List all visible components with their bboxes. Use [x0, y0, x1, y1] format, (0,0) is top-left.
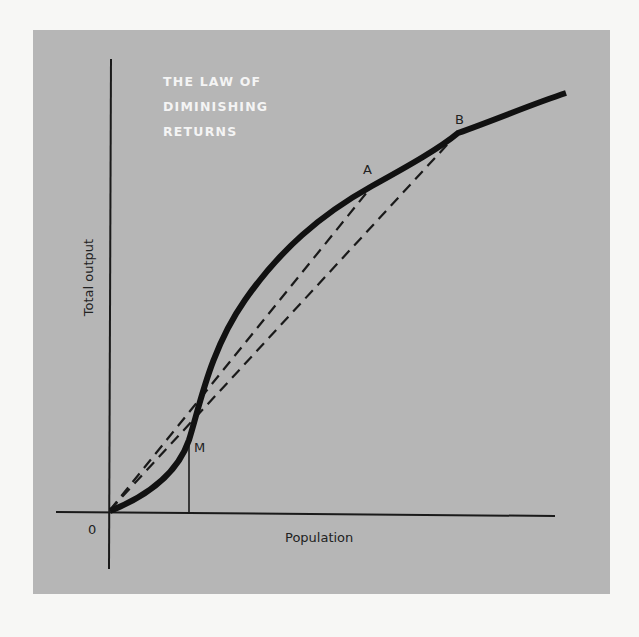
ray-origin-to-a	[110, 186, 372, 510]
y-axis-label: Total output	[81, 228, 96, 328]
chart-title-line-2: DIMINISHING	[163, 99, 268, 114]
ray-origin-to-b	[110, 133, 458, 510]
x-axis-label: Population	[285, 530, 353, 545]
point-b-label: B	[455, 112, 464, 127]
chart-title-line-1: THE LAW OF	[163, 74, 261, 89]
total-output-curve	[110, 93, 566, 511]
x-axis	[56, 512, 555, 516]
point-m-label: M	[194, 440, 205, 455]
point-a-label: A	[363, 162, 372, 177]
origin-label: 0	[88, 522, 96, 537]
y-axis	[109, 59, 111, 569]
chart-title-line-3: RETURNS	[163, 124, 237, 139]
